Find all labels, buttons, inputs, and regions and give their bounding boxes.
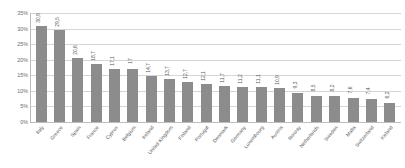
category-slot: Spain <box>69 124 87 168</box>
bar-slot: 10,9 <box>270 13 288 122</box>
bar-value-label: 9,3 <box>293 82 298 89</box>
bar-value-label: 20,6 <box>73 45 78 55</box>
y-axis-tick-label: 35% <box>2 10 28 16</box>
category-slot: Netherlands <box>307 124 325 168</box>
bar-slot: 18,7 <box>87 13 105 122</box>
bar: 7,4 <box>366 99 377 122</box>
bar-value-label: 17 <box>128 58 133 64</box>
bar-value-label: 10,9 <box>275 75 280 85</box>
bar: 12,1 <box>201 84 212 122</box>
bar-slot: 30,9 <box>32 13 50 122</box>
x-axis-category-label: Belgium <box>121 125 136 142</box>
bar: 6,2 <box>384 103 395 122</box>
bar-value-label: 7,6 <box>348 87 353 94</box>
bar-slot: 6,2 <box>381 13 399 122</box>
x-axis-category-label: Norway <box>287 125 302 141</box>
x-axis-category-label: Cyprus <box>104 125 118 140</box>
bar: 13,7 <box>164 79 175 122</box>
bar-value-label: 11,7 <box>220 73 225 82</box>
bar: 10,9 <box>274 88 285 122</box>
x-axis-category-label: Spain <box>70 125 82 138</box>
category-slot: Denmark <box>215 124 233 168</box>
bar: 11,7 <box>219 86 230 122</box>
bar-slot: 8,2 <box>326 13 344 122</box>
category-slot: Sweden <box>326 124 344 168</box>
category-slot: Belgium <box>124 124 142 168</box>
x-axis-category-label: France <box>86 125 100 140</box>
bar-series: 30,929,520,618,717,11714,713,712,712,111… <box>30 13 401 122</box>
bar: 30,9 <box>36 26 47 122</box>
bar-slot: 11,2 <box>234 13 252 122</box>
x-axis-category-label: Sweden <box>323 125 338 142</box>
bar-slot: 7,6 <box>344 13 362 122</box>
bar: 7,6 <box>348 98 359 122</box>
bar-value-label: 8,5 <box>311 84 316 91</box>
bar-value-label: 14,7 <box>146 63 151 73</box>
y-axis-tick-label: 5% <box>2 103 28 109</box>
bar: 29,5 <box>54 30 65 122</box>
y-axis-tick-label: 25% <box>2 41 28 47</box>
y-axis-tick-label: 30% <box>2 26 28 32</box>
bar-slot: 11,7 <box>215 13 233 122</box>
category-slot: Finland <box>179 124 197 168</box>
bar-slot: 9,3 <box>289 13 307 122</box>
bar-slot: 12,7 <box>179 13 197 122</box>
y-axis-tick-label: 15% <box>2 72 28 78</box>
bar-value-label: 13,7 <box>165 66 170 76</box>
bar-value-label: 7,4 <box>366 87 371 94</box>
bar-slot: 17 <box>124 13 142 122</box>
x-axis-category-label: Portugal <box>194 125 210 142</box>
x-axis-category-label: Ireland <box>141 125 155 140</box>
bar-slot: 12,1 <box>197 13 215 122</box>
bar: 17,1 <box>109 69 120 122</box>
x-axis-category-label: Finland <box>177 125 191 141</box>
category-slot: Greece <box>50 124 68 168</box>
x-axis-category-label: Iceland <box>379 125 393 141</box>
category-slot: France <box>87 124 105 168</box>
bar-slot: 13,7 <box>160 13 178 122</box>
category-slot: Iceland <box>381 124 399 168</box>
category-slot: Portugal <box>197 124 215 168</box>
bar: 11,2 <box>237 87 248 122</box>
x-axis-category-label: Greece <box>49 125 63 141</box>
x-axis-category-labels: ItalyGreeceSpainFranceCyprusBelgiumIrela… <box>30 124 401 168</box>
category-slot: United Kingdom <box>160 124 178 168</box>
bar: 8,5 <box>311 96 322 122</box>
bar: 17 <box>127 69 138 122</box>
bar-value-label: 12,1 <box>201 71 206 81</box>
bar-slot: 14,7 <box>142 13 160 122</box>
y-axis-tick-label: 20% <box>2 57 28 63</box>
bar-slot: 11,1 <box>252 13 270 122</box>
bar: 20,6 <box>72 58 83 122</box>
bar: 9,3 <box>292 93 303 122</box>
y-axis-tick-label: 10% <box>2 88 28 94</box>
category-slot: Cyprus <box>105 124 123 168</box>
bar-slot: 20,6 <box>69 13 87 122</box>
bar: 12,7 <box>182 82 193 122</box>
bar-value-label: 18,7 <box>91 51 96 61</box>
bar-value-label: 8,2 <box>330 85 335 92</box>
x-axis-category-label: Italy <box>35 125 45 135</box>
bar-chart: 35%30%25%20%15%10%5%0% 30,929,520,618,71… <box>0 0 405 168</box>
bar-value-label: 12,7 <box>183 70 188 80</box>
bar: 14,7 <box>146 76 157 122</box>
bar: 11,1 <box>256 87 267 122</box>
bar-value-label: 11,2 <box>238 74 243 83</box>
x-axis-category-label: Austria <box>270 125 284 140</box>
x-axis-category-label: Malta <box>345 125 357 138</box>
category-slot: Luxembourg <box>252 124 270 168</box>
bar-value-label: 29,5 <box>55 17 60 27</box>
gridline <box>30 122 401 123</box>
bar: 18,7 <box>91 64 102 122</box>
y-axis-tick-label: 0% <box>2 119 28 125</box>
category-slot: Italy <box>32 124 50 168</box>
bar-value-label: 6,2 <box>385 91 390 98</box>
bar-value-label: 11,1 <box>256 75 261 84</box>
bar-value-label: 30,9 <box>36 13 41 23</box>
category-slot: Switzerland <box>362 124 380 168</box>
bar-value-label: 17,1 <box>110 56 115 66</box>
bar: 8,2 <box>329 96 340 122</box>
bar-slot: 29,5 <box>50 13 68 122</box>
bar-slot: 8,5 <box>307 13 325 122</box>
category-slot: Austria <box>270 124 288 168</box>
